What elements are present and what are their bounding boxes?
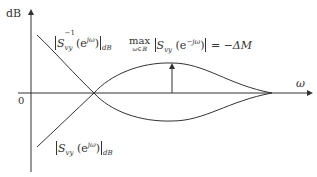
sensitivity-label: Svy (ejω)dB <box>55 141 113 157</box>
diagram-graphics <box>0 0 317 177</box>
y-axis-label: dB <box>6 8 21 19</box>
sensitivity-curve <box>37 93 272 147</box>
origin-label: 0 <box>18 96 24 106</box>
x-axis-label: ω <box>296 78 305 89</box>
peak-annotation: max ω∈ℝ Svy (e−jω) = −ΔM <box>129 38 252 54</box>
sensitivity-diagram: dB ω 0 S−1vy (ejω)dB Svy (ejω)dB max ω∈ℝ… <box>0 0 317 177</box>
inverse-sensitivity-label: S−1vy (ejω)dB <box>54 36 112 52</box>
